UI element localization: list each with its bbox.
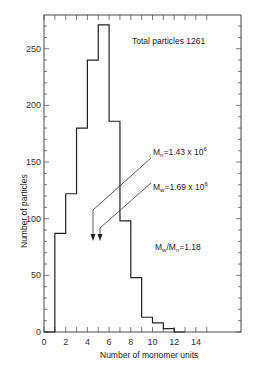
plot-frame <box>44 15 241 332</box>
tick-label: 6 <box>107 337 112 347</box>
mn-annotation: Mn=1.43 x 106 <box>153 146 207 158</box>
total-particles-annotation: Total particles 1261 <box>132 36 206 46</box>
tick-label: 0 <box>36 327 41 337</box>
y-axis-ticks <box>44 26 49 332</box>
tick-label: 250 <box>26 44 41 54</box>
x-tick-labels: 02468101214 <box>41 337 200 347</box>
mw-annotation: Mw=1.69 x 106 <box>153 181 208 193</box>
tick-label: 10 <box>147 337 157 347</box>
tick-label: 150 <box>26 157 41 167</box>
x-axis-ticks <box>44 327 207 332</box>
x-axis-title: Number of monomer units <box>100 350 198 360</box>
right-axis-ticks <box>236 26 241 332</box>
mw-arrow <box>98 183 152 241</box>
tick-label: 14 <box>191 337 201 347</box>
tick-label: 50 <box>31 270 41 280</box>
mn-arrow <box>91 158 152 241</box>
ratio-annotation: Mw/Mn=1.18 <box>155 242 201 253</box>
tick-label: 12 <box>169 337 179 347</box>
histogram-chart: 050100150200250 02468101214 Number of mo… <box>0 0 255 373</box>
top-axis-ticks <box>44 15 207 20</box>
tick-label: 200 <box>26 100 41 110</box>
tick-label: 4 <box>85 337 90 347</box>
tick-label: 0 <box>41 337 46 347</box>
tick-label: 2 <box>63 337 68 347</box>
tick-label: 8 <box>128 337 133 347</box>
y-axis-title: Number of particles <box>19 174 29 248</box>
histogram-outline <box>44 25 185 332</box>
